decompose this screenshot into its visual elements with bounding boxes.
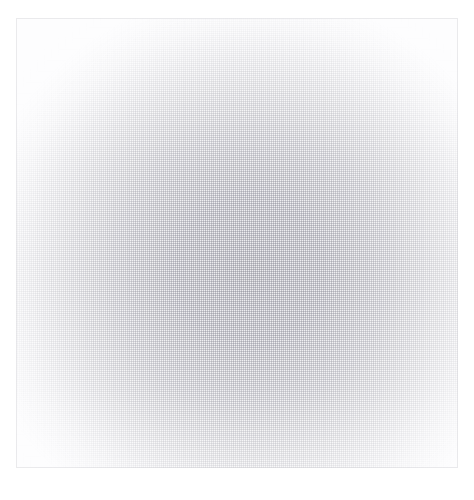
page-canvas <box>0 0 474 500</box>
empty-state-label <box>16 18 458 468</box>
blank-content-panel <box>16 18 458 468</box>
